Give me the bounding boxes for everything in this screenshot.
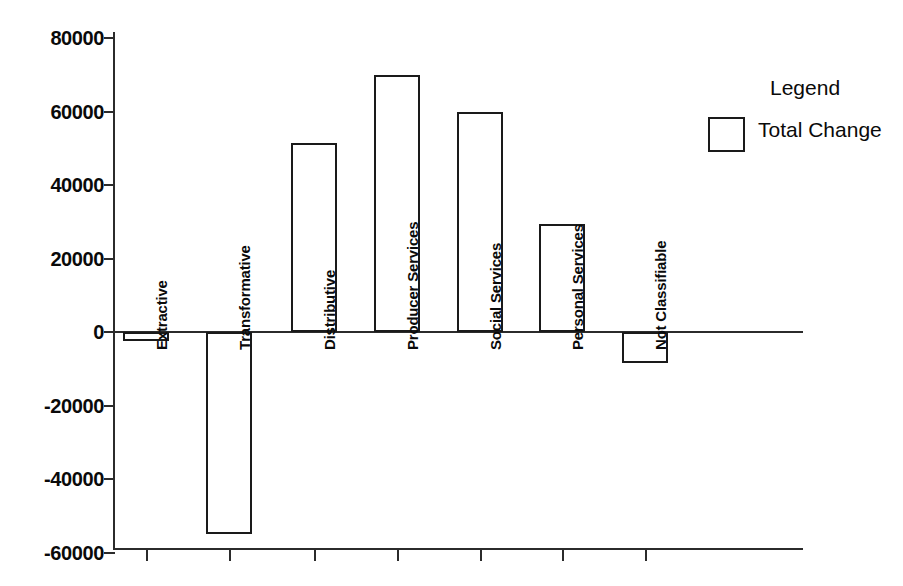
category-label-distributive: Distributive xyxy=(321,270,338,350)
x-axis-line xyxy=(113,548,803,550)
y-axis-tick-label: -60000 xyxy=(8,541,104,564)
y-axis-tick-label: 80000 xyxy=(8,27,104,50)
y-axis-tick xyxy=(104,184,115,186)
y-axis-tick xyxy=(104,405,115,407)
legend-swatch-total-change xyxy=(708,117,745,152)
category-label-personal-services: Personal Services xyxy=(569,224,586,350)
x-axis-tick xyxy=(229,550,231,561)
y-axis-tick xyxy=(104,37,115,39)
category-label-social-services: Social Services xyxy=(487,243,504,350)
category-label-extractive: Extractive xyxy=(153,280,170,350)
x-axis-tick xyxy=(562,550,564,561)
legend-label-total-change: Total Change xyxy=(758,118,882,142)
y-axis-tick xyxy=(104,552,115,554)
bar-transformative xyxy=(206,332,252,534)
x-axis-tick xyxy=(480,550,482,561)
y-axis-tick-label: 20000 xyxy=(8,247,104,270)
y-axis-tick-label: -20000 xyxy=(8,394,104,417)
bar-chart: 800006000040000200000-20000-40000-60000 … xyxy=(0,0,903,586)
y-axis-tick-label: -40000 xyxy=(8,468,104,491)
y-axis-tick-label: 40000 xyxy=(8,174,104,197)
x-axis-tick xyxy=(314,550,316,561)
y-axis-tick xyxy=(104,478,115,480)
category-label-transformative: Transformative xyxy=(236,245,253,350)
category-label-producer-services: Producer Services xyxy=(404,222,421,350)
x-axis-tick xyxy=(146,550,148,561)
y-axis-tick-label: 0 xyxy=(8,321,104,344)
x-axis-tick xyxy=(397,550,399,561)
legend-title: Legend xyxy=(770,76,840,100)
category-label-not-classifiable: Not Classifiable xyxy=(652,241,669,350)
y-axis-tick xyxy=(104,111,115,113)
x-axis-tick xyxy=(645,550,647,561)
y-axis-tick xyxy=(104,258,115,260)
y-axis-tick-label: 60000 xyxy=(8,100,104,123)
